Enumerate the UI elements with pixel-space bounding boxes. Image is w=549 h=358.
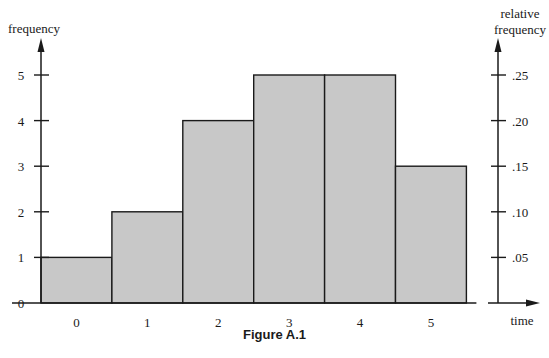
left-y-tick-label: 5 — [18, 68, 25, 83]
left-y-tick-label: 4 — [18, 114, 25, 129]
right-y-tick-label: .05 — [512, 250, 528, 265]
left-y-tick-label: 3 — [18, 159, 25, 174]
histogram-bar — [325, 75, 396, 303]
right-y-axis-title: frequency — [494, 22, 546, 37]
right-axis-arrow-icon — [495, 38, 502, 52]
left-y-tick-label: 1 — [18, 250, 25, 265]
left-axis-arrow-icon — [38, 38, 45, 52]
right-y-tick-label: .20 — [512, 114, 528, 129]
x-axis-title: time — [510, 313, 533, 328]
histogram-bar — [254, 75, 325, 303]
time-axis-arrow-icon — [526, 300, 540, 307]
right-y-axis-title: relative — [501, 6, 540, 21]
figure-caption: Figure A.1 — [0, 327, 549, 342]
left-y-tick-label: 2 — [18, 205, 25, 220]
right-y-tick-label: .10 — [512, 205, 528, 220]
left-y-axis-title: frequency — [8, 21, 60, 36]
histogram-bar — [41, 257, 112, 303]
histogram-bar — [183, 121, 254, 303]
histogram-chart: 012345012345.05.10.15.20.25frequencyrela… — [0, 0, 549, 358]
right-y-tick-label: .15 — [512, 159, 528, 174]
right-y-tick-label: .25 — [512, 68, 528, 83]
histogram-bar — [396, 166, 467, 303]
histogram-bar — [112, 212, 183, 303]
bars — [41, 75, 466, 303]
left-y-tick-label: 0 — [18, 296, 25, 311]
